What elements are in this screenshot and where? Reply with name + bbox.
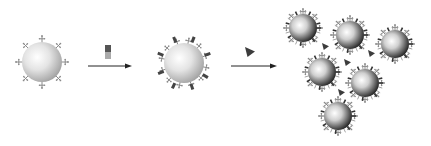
surface-ligand-icon [392, 26, 393, 30]
particle-core [289, 14, 317, 42]
ligand-icon [39, 81, 46, 89]
surface-ligand-icon [316, 23, 320, 24]
surface-ligand-icon [351, 111, 355, 112]
ligand-tip [335, 58, 337, 60]
surface-ligand-icon [331, 100, 333, 104]
surface-ligand-icon [335, 98, 336, 102]
ligand-tip [302, 8, 304, 10]
ligand-icon [55, 75, 61, 81]
ligand-tip [321, 52, 323, 54]
linker-triangle-icon [322, 43, 329, 50]
reagent-triangle-icon [245, 47, 255, 57]
ligand-tip [64, 59, 66, 61]
ligand-icon [39, 35, 46, 43]
surface-ligand-icon [309, 12, 311, 16]
bound-reagent-icon [171, 82, 176, 89]
ligand-tip [327, 102, 329, 104]
ligand-tip [408, 57, 410, 59]
ligand-tip [321, 27, 323, 29]
ligand-tip [319, 25, 321, 27]
ligand-tip [321, 113, 323, 115]
surface-ligand-icon [356, 48, 358, 52]
ligand-tip [286, 30, 288, 32]
surface-ligand-icon [378, 48, 382, 49]
surface-ligand-icon [321, 111, 325, 112]
ligand-tip [206, 64, 208, 66]
surface-ligand-icon [324, 86, 325, 90]
surface-ligand-icon [392, 58, 393, 62]
ligand-tip [161, 67, 163, 69]
ligand-tip [27, 43, 29, 45]
ligand-tip [381, 57, 383, 59]
surface-ligand-icon [307, 80, 310, 82]
surface-ligand-icon [388, 57, 390, 61]
ligand-tip [312, 14, 314, 16]
ligand-tip [411, 41, 413, 43]
reaction-scheme [0, 0, 431, 146]
ligand-tip [308, 85, 310, 87]
ligand-tip [311, 58, 313, 60]
surface-ligand-icon [315, 56, 317, 60]
surface-ligand-icon [367, 65, 368, 69]
surface-ligand-icon [344, 129, 346, 133]
ligand-tip [359, 21, 361, 23]
ligand-tip [321, 90, 323, 92]
ligand-tip [161, 60, 163, 62]
ligand-tip [289, 41, 291, 43]
ligand-tip [59, 76, 61, 78]
ligand-tip [289, 14, 291, 16]
surface-ligand-icon [371, 96, 373, 100]
ligand-tip [374, 69, 376, 71]
surface-ligand-icon [363, 39, 367, 40]
bound-reagent-icon [191, 36, 196, 43]
ligand-tip [354, 113, 356, 115]
cluster-nanoparticle-6 [318, 96, 358, 136]
ligand-tip [335, 85, 337, 87]
surface-ligand-icon [296, 41, 298, 45]
ligand-tip [59, 79, 61, 81]
ligand-tip [59, 47, 61, 49]
ligand-tip [308, 58, 310, 60]
ligand-tip [188, 38, 190, 40]
ligand-icon [23, 43, 29, 49]
ligand-tip [178, 87, 180, 89]
surface-ligand-icon [351, 120, 355, 121]
surface-ligand-icon [401, 28, 403, 32]
ligand-tip [363, 21, 365, 23]
nanoparticle-stage-2 [157, 36, 211, 90]
ligand-tip [338, 74, 340, 76]
surface-ligand-icon [286, 23, 290, 24]
surface-ligand-icon [397, 26, 398, 30]
surface-ligand-icon [296, 12, 298, 16]
ligand-tip [302, 71, 304, 73]
surface-ligand-icon [388, 28, 390, 32]
surface-ligand-icon [309, 41, 311, 45]
ligand-icon [55, 43, 61, 49]
surface-ligand-icon [328, 56, 330, 60]
surface-ligand-icon [333, 39, 337, 40]
surface-ligand-icon [343, 48, 345, 52]
ligand-tip [56, 79, 58, 81]
surface-ligand-icon [300, 10, 301, 14]
ligand-tip [327, 129, 329, 131]
reagent-square-icon [105, 45, 111, 59]
ligand-tip [170, 81, 172, 83]
ligand-tip [41, 87, 43, 89]
ligand-tip [27, 79, 29, 81]
ligand-tip [339, 48, 341, 50]
surface-ligand-icon [371, 67, 373, 71]
surface-ligand-icon [335, 76, 339, 77]
ligand-tip [351, 129, 353, 131]
surface-ligand-icon [378, 87, 382, 88]
ligand-tip [205, 57, 207, 59]
ligand-tip [23, 43, 25, 45]
ligand-tip [18, 64, 20, 66]
surface-ligand-icon [378, 78, 382, 79]
surface-ligand-icon [316, 32, 320, 33]
surface-ligand-icon [340, 98, 341, 102]
surface-ligand-icon [401, 57, 403, 61]
ligand-tip [39, 38, 41, 40]
ligand-tip [44, 38, 46, 40]
ligand-tip [15, 61, 17, 63]
ligand-icon [15, 59, 23, 66]
